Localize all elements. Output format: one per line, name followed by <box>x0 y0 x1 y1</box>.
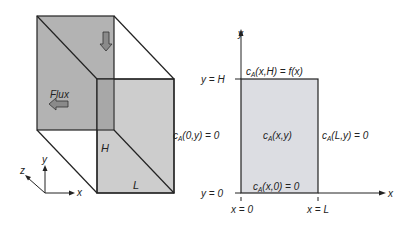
interior-concentration: cA(x,y) <box>263 130 292 142</box>
axis-triad <box>25 165 75 196</box>
bc-left: cA(0,y) = 0 <box>173 130 220 142</box>
y-arrowhead-icon <box>43 165 48 171</box>
diagram-canvas: Flux H L y x z y x y = H y = 0 x = 0 x =… <box>0 0 416 234</box>
triad-x-label: x <box>76 187 83 198</box>
domain-2d <box>235 29 386 201</box>
triad-z-label: z <box>19 165 25 176</box>
tick-x-L: x = L <box>306 204 329 215</box>
bc-top: cA(x,H) = f(x) <box>246 66 303 78</box>
length-label: L <box>133 179 139 191</box>
y-axis-label: y <box>237 28 244 39</box>
height-label: H <box>101 142 109 154</box>
bc-right: cA(L,y) = 0 <box>322 130 369 142</box>
slab-3d <box>37 16 174 193</box>
tick-x-0: x = 0 <box>230 204 253 215</box>
tick-y-0: y = 0 <box>200 188 223 199</box>
triad-y-label: y <box>41 154 48 165</box>
tick-y-H: y = H <box>200 74 225 85</box>
overlap-region <box>97 79 114 130</box>
x-arrowhead-icon <box>69 191 75 196</box>
x-axis-arrowhead-icon <box>379 191 386 196</box>
x-axis-label: x <box>387 188 394 199</box>
flux-label: Flux <box>50 89 70 100</box>
